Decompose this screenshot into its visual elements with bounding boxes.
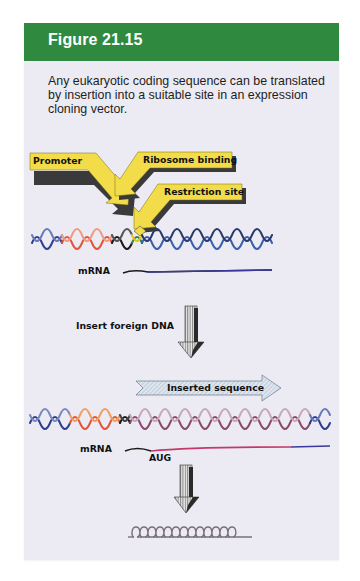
aug-start-codon-label: AUG	[149, 452, 171, 463]
insert-foreign-dna-label: Insert foreign DNA	[76, 320, 174, 331]
mrna-bottom-label: mRNA	[80, 443, 112, 454]
promoter-label: Promoter	[33, 155, 82, 166]
mrna-top-label: mRNA	[78, 265, 110, 276]
inserted-sequence-label: Inserted sequence	[167, 382, 264, 393]
expression-vector-diagram	[0, 0, 360, 581]
recombinant-dna-helix	[30, 409, 330, 429]
vector-dna-helix	[32, 229, 272, 249]
down-arrow-insert	[178, 306, 204, 358]
mrna-bottom	[125, 446, 330, 451]
down-arrow-translate	[174, 465, 199, 513]
restriction-site-label: Restriction site	[164, 186, 244, 197]
mrna-top	[123, 270, 272, 273]
ribosome-binding-label: Ribosome binding	[143, 154, 237, 165]
protein-coil	[128, 527, 252, 537]
